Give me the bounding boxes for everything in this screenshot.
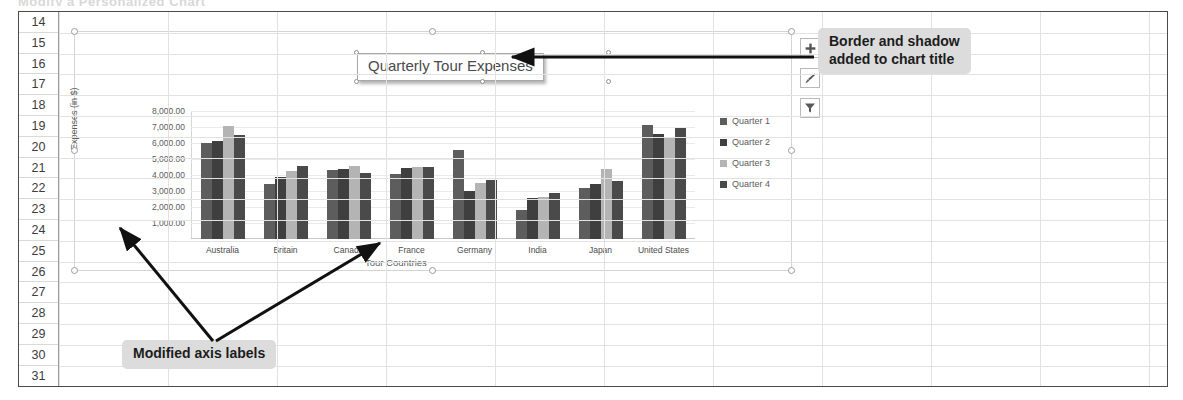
bar[interactable]	[538, 197, 549, 239]
bar[interactable]	[453, 150, 464, 239]
grid-row-line	[59, 262, 1167, 263]
row-header-25[interactable]: 25	[19, 241, 58, 262]
grid-row-line	[59, 74, 1167, 75]
annotation-callout-axis: Modified axis labels	[122, 340, 276, 369]
legend-label: Quarter 1	[732, 116, 770, 126]
bar[interactable]	[653, 134, 664, 239]
grid-col-line	[168, 12, 169, 386]
resize-handle-middle-right[interactable]	[788, 147, 795, 154]
grid-row-line	[59, 137, 1167, 138]
resize-handle-bottom-center[interactable]	[429, 267, 436, 274]
clipped-page-heading: Modify a Personalized Chart	[18, 0, 418, 6]
x-tick-label: India	[506, 245, 569, 255]
bar[interactable]	[579, 188, 590, 239]
chart-elements-button[interactable]	[800, 38, 820, 58]
row-header-strip[interactable]: 141516171819202122232425262728293031	[19, 12, 59, 386]
row-header-20[interactable]: 20	[19, 137, 58, 158]
grid-row-line	[59, 95, 1167, 96]
row-header-16[interactable]: 16	[19, 54, 58, 75]
bar[interactable]	[212, 141, 223, 239]
bar[interactable]	[464, 191, 475, 239]
bar[interactable]	[527, 198, 538, 239]
row-header-28[interactable]: 28	[19, 303, 58, 324]
x-tick-label: Canada	[317, 245, 380, 255]
grid-row-line	[59, 241, 1167, 242]
row-header-15[interactable]: 15	[19, 33, 58, 54]
bar[interactable]	[286, 171, 297, 239]
x-tick-label: Australia	[191, 245, 254, 255]
bar[interactable]	[338, 169, 349, 239]
grid-col-line	[713, 12, 714, 386]
x-tick-label: France	[380, 245, 443, 255]
bar[interactable]	[223, 126, 234, 239]
grid-col-line	[604, 12, 605, 386]
legend-label: Quarter 3	[732, 158, 770, 168]
resize-handle-bottom-right[interactable]	[788, 267, 795, 274]
bar[interactable]	[234, 135, 245, 239]
legend-label: Quarter 4	[732, 179, 770, 189]
title-handle-bl[interactable]	[354, 79, 359, 84]
chart-filters-button[interactable]	[800, 98, 820, 118]
legend-item[interactable]: Quarter 2	[720, 137, 770, 147]
resize-handle-top-left[interactable]	[71, 28, 78, 35]
resize-handle-bottom-left[interactable]	[71, 267, 78, 274]
legend-swatch-icon	[720, 118, 727, 125]
legend-swatch-icon	[720, 160, 727, 167]
row-header-21[interactable]: 21	[19, 158, 58, 179]
title-handle-bc[interactable]	[480, 79, 485, 84]
bar[interactable]	[297, 166, 308, 239]
row-header-29[interactable]: 29	[19, 324, 58, 345]
row-header-27[interactable]: 27	[19, 282, 58, 303]
grid-row-line	[59, 282, 1167, 283]
grid-row-line	[59, 178, 1167, 179]
plus-icon	[805, 43, 816, 54]
bar[interactable]	[675, 128, 686, 239]
grid-col-line	[277, 12, 278, 386]
legend-item[interactable]: Quarter 1	[720, 116, 770, 126]
bar[interactable]	[390, 174, 401, 239]
bar[interactable]	[664, 138, 675, 239]
grid-row-line	[59, 199, 1167, 200]
resize-handle-top-center[interactable]	[429, 28, 436, 35]
grid-col-line	[1149, 12, 1150, 386]
row-header-31[interactable]: 31	[19, 366, 58, 387]
grid-row-line	[59, 33, 1167, 34]
grid-col-line	[386, 12, 387, 386]
x-tick-label: Germany	[443, 245, 506, 255]
grid-row-line	[59, 220, 1167, 221]
row-header-24[interactable]: 24	[19, 220, 58, 241]
resize-handle-middle-left[interactable]	[71, 147, 78, 154]
legend-swatch-icon	[720, 181, 727, 188]
chart-object[interactable]: Quarterly Tour Expenses Expenses (in $) …	[74, 31, 792, 271]
resize-handle-top-right[interactable]	[788, 28, 795, 35]
bar[interactable]	[475, 183, 486, 239]
title-handle-br[interactable]	[606, 79, 611, 84]
y-axis-title[interactable]: Expenses (in $)	[69, 87, 79, 150]
bar[interactable]	[612, 181, 623, 239]
bar[interactable]	[264, 184, 275, 239]
row-header-22[interactable]: 22	[19, 178, 58, 199]
bar[interactable]	[349, 166, 360, 239]
annotation-callout-title: Border and shadow added to chart title	[818, 28, 971, 74]
bar[interactable]	[327, 170, 338, 239]
row-header-26[interactable]: 26	[19, 262, 58, 283]
row-header-23[interactable]: 23	[19, 199, 58, 220]
row-header-19[interactable]: 19	[19, 116, 58, 137]
legend-item[interactable]: Quarter 4	[720, 179, 770, 189]
bar[interactable]	[360, 173, 371, 239]
grid-row-line	[59, 158, 1167, 159]
grid-row-line	[59, 54, 1167, 55]
grid-row-line	[59, 303, 1167, 304]
row-header-14[interactable]: 14	[19, 12, 58, 33]
chart-styles-button[interactable]	[800, 68, 820, 88]
bar[interactable]	[516, 210, 527, 239]
row-header-18[interactable]: 18	[19, 95, 58, 116]
worksheet-grid[interactable]: Quarterly Tour Expenses Expenses (in $) …	[59, 12, 1167, 386]
legend-item[interactable]: Quarter 3	[720, 158, 770, 168]
bar[interactable]	[642, 125, 653, 239]
grid-row-line	[59, 116, 1167, 117]
x-tick-label: Japan	[569, 245, 632, 255]
row-header-30[interactable]: 30	[19, 345, 58, 366]
bar[interactable]	[590, 184, 601, 239]
row-header-17[interactable]: 17	[19, 74, 58, 95]
